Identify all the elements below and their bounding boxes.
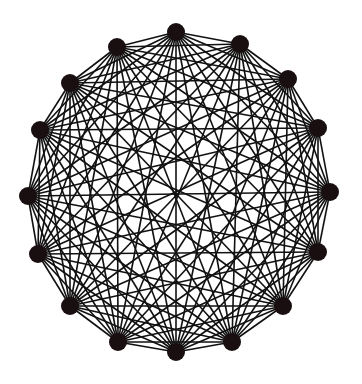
graph-node (231, 35, 249, 53)
graph-node (167, 343, 185, 361)
complete-graph-diagram (0, 0, 362, 384)
graph-node (61, 74, 79, 92)
graph-edge (240, 44, 330, 192)
graph-node (309, 119, 327, 137)
graph-node (31, 121, 49, 139)
graph-edge (176, 32, 330, 192)
graph-node (61, 297, 79, 315)
graph-node (167, 23, 185, 41)
graph-node (109, 333, 127, 351)
graph-node (108, 38, 126, 56)
graph-node (29, 245, 47, 263)
graph-node (274, 297, 292, 315)
graph-edge (117, 47, 118, 342)
graph-edge (40, 47, 117, 130)
graph-node (19, 187, 37, 205)
graph-edge (38, 130, 40, 254)
graph-edge (28, 196, 283, 306)
graph-node (223, 333, 241, 351)
graph-node (321, 183, 339, 201)
graph-node (309, 243, 327, 261)
graph-edge (40, 130, 176, 352)
graph-node (279, 70, 297, 88)
